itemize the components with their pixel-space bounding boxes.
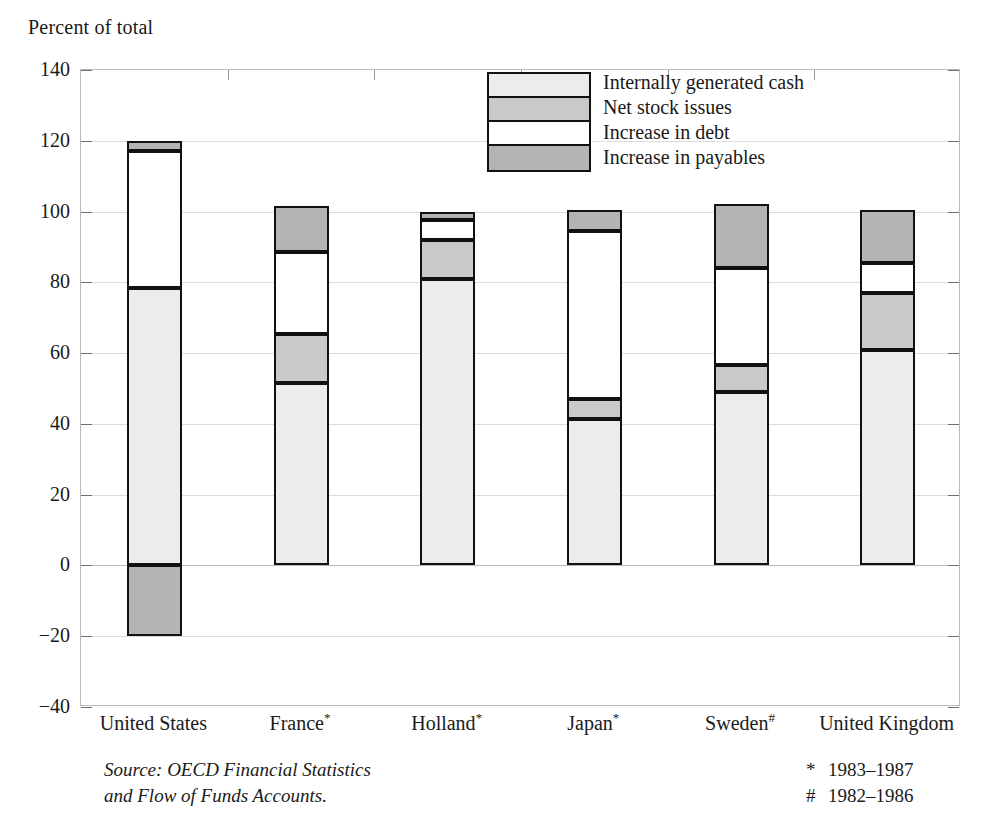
bar-segment-payables <box>714 204 769 268</box>
y-tick-label-120: 120 <box>8 130 70 150</box>
source-line-2: and Flow of Funds Accounts. <box>104 783 371 809</box>
x-tick-label-holland: Holland* <box>411 712 482 735</box>
x-tick-label-united-states: United States <box>100 712 207 735</box>
bar-segment-cash <box>860 350 915 566</box>
y-tick-label-100: 100 <box>8 201 70 221</box>
y-tick-label-80: 80 <box>8 271 70 291</box>
bar-segment-debt <box>714 268 769 365</box>
y-tick-label-40: 40 <box>8 413 70 433</box>
bar-segment-payables <box>567 210 622 231</box>
bar-segment-stock <box>714 365 769 392</box>
y-tick-label--20: −20 <box>8 625 70 645</box>
legend-swatch-2 <box>489 122 589 146</box>
y-tick-mark-0 <box>948 565 959 566</box>
footnote-mark: # <box>806 783 828 809</box>
y-tick-mark-60 <box>81 353 92 354</box>
y-tick-label-20: 20 <box>8 484 70 504</box>
y-tick-mark--20 <box>948 636 959 637</box>
y-tick-mark-20 <box>948 495 959 496</box>
footnote-mark: * <box>806 757 828 783</box>
x-tick-label-sweden: Sweden# <box>705 712 775 735</box>
footnote-marker: * <box>324 710 331 725</box>
legend-labels: Internally generated cashNet stock issue… <box>603 70 804 170</box>
x-tick-label-france: France* <box>270 712 331 735</box>
bar-segment-payables <box>274 206 329 252</box>
y-tick-mark-40 <box>948 424 959 425</box>
bar-segment-debt <box>420 220 475 239</box>
bar-segment-payables <box>860 210 915 263</box>
y-tick-mark-140 <box>81 70 92 71</box>
gridline-20 <box>81 495 959 496</box>
footnote-text: 1983–1987 <box>828 759 914 780</box>
footnote-marker: * <box>613 710 620 725</box>
y-tick-mark--40 <box>81 707 92 708</box>
legend-label-3: Increase in payables <box>603 145 804 170</box>
bar-segment-payables-negative <box>127 565 182 636</box>
y-tick-label-140: 140 <box>8 59 70 79</box>
bar-group <box>127 70 182 707</box>
bar-group <box>420 70 475 707</box>
bar-segment-cash <box>567 419 622 566</box>
gridline--20 <box>81 636 959 637</box>
y-tick-label-0: 0 <box>8 554 70 574</box>
y-tick-mark-140 <box>948 70 959 71</box>
x-tick-mark <box>228 70 229 80</box>
y-tick-mark-80 <box>81 282 92 283</box>
y-tick-mark-40 <box>81 424 92 425</box>
bar-segment-debt <box>274 252 329 333</box>
footnote-text: 1982–1986 <box>828 785 914 806</box>
x-tick-label-united-kingdom: United Kingdom <box>819 712 954 735</box>
gridline-40 <box>81 424 959 425</box>
y-tick-label-60: 60 <box>8 342 70 362</box>
y-tick-mark-20 <box>81 495 92 496</box>
gridline-0 <box>81 565 959 566</box>
footnote-row: #1982–1986 <box>806 783 914 809</box>
bar-segment-debt <box>127 151 182 287</box>
y-tick-mark-100 <box>81 212 92 213</box>
gridline-80 <box>81 282 959 283</box>
y-tick-label--40: −40 <box>8 696 70 716</box>
bar-group <box>860 70 915 707</box>
y-tick-mark--20 <box>81 636 92 637</box>
source-line-1: Source: OECD Financial Statistics <box>104 757 371 783</box>
footnote-row: *1983–1987 <box>806 757 914 783</box>
y-tick-mark--40 <box>948 707 959 708</box>
bar-segment-stock <box>860 293 915 350</box>
y-tick-mark-80 <box>948 282 959 283</box>
bar-segment-payables <box>420 212 475 221</box>
footnote-marker: # <box>768 710 775 725</box>
gridline-100 <box>81 212 959 213</box>
x-tick-mark <box>814 70 815 80</box>
legend-swatches <box>487 72 591 172</box>
bar-segment-stock <box>567 399 622 418</box>
bar-segment-debt <box>567 231 622 399</box>
bar-segment-cash <box>127 288 182 566</box>
legend-label-0: Internally generated cash <box>603 70 804 95</box>
bar-segment-stock <box>274 334 329 384</box>
legend-swatch-3 <box>489 146 589 170</box>
footnote-marker: * <box>476 710 483 725</box>
bar-segment-cash <box>714 392 769 565</box>
y-axis-title: Percent of total <box>28 16 153 39</box>
bar-segment-payables <box>127 141 182 152</box>
bar-segment-cash <box>274 383 329 565</box>
legend-label-2: Increase in debt <box>603 120 804 145</box>
x-tick-label-japan: Japan* <box>567 712 619 735</box>
bar-segment-debt <box>860 263 915 293</box>
x-tick-mark <box>374 70 375 80</box>
footnotes: *1983–1987#1982–1986 <box>806 757 914 809</box>
bar-group <box>274 70 329 707</box>
legend-swatch-1 <box>489 98 589 122</box>
y-tick-mark-120 <box>81 141 92 142</box>
y-tick-mark-0 <box>81 565 92 566</box>
y-tick-mark-120 <box>948 141 959 142</box>
chart-container: Percent of total 140120100806040200−20−4… <box>0 0 987 826</box>
source-note: Source: OECD Financial Statistics and Fl… <box>104 757 371 809</box>
legend-swatch-0 <box>489 74 589 98</box>
bar-segment-stock <box>420 240 475 279</box>
y-tick-mark-60 <box>948 353 959 354</box>
gridline-60 <box>81 353 959 354</box>
bar-segment-cash <box>420 279 475 566</box>
legend-label-1: Net stock issues <box>603 95 804 120</box>
y-tick-mark-100 <box>948 212 959 213</box>
